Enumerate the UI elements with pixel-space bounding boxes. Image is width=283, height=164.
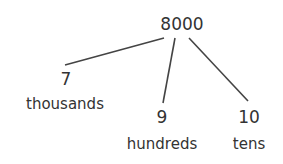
child-label-thousands: thousands: [26, 97, 104, 112]
child-label-tens: tens: [233, 137, 265, 152]
child-label-hundreds: hundreds: [127, 137, 197, 152]
connector-root-to-hundreds: [163, 38, 175, 103]
child-value-hundreds: 9: [157, 109, 168, 126]
connector-root-to-tens: [189, 38, 248, 101]
child-value-thousands: 7: [61, 71, 72, 88]
child-value-tens: 10: [238, 109, 260, 126]
root-value: 8000: [160, 16, 203, 33]
connector-root-to-thousands: [65, 38, 164, 65]
